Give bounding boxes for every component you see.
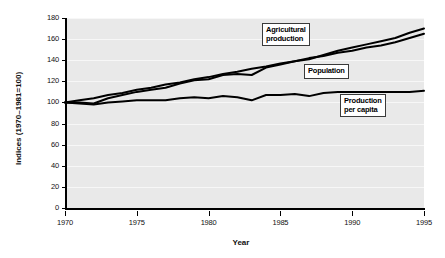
agricultural-production-callout: Agricultural production <box>262 23 310 46</box>
data-series-group <box>0 0 445 258</box>
population-callout: Population <box>304 64 349 79</box>
y-axis-title: Indices (1970–1981=100) <box>14 72 23 165</box>
x-axis-title: Year <box>233 238 250 247</box>
production-per-capita-callout: Production per capita <box>340 94 386 117</box>
chart-container: 020406080100120140160180 197019751980198… <box>0 0 445 258</box>
